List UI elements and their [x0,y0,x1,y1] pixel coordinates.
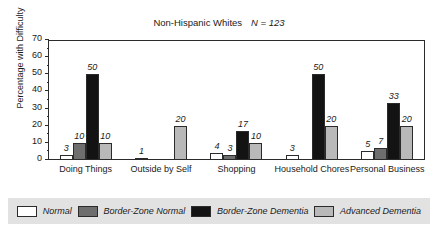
bar-group: 3105010 [48,40,123,160]
legend-label: Normal [43,206,72,216]
y-axis-tick-label: 10 [20,136,42,146]
chart-sample-size: N = 123 [251,17,285,28]
x-axis-label: Household Chores [275,164,350,174]
bar-advanced-dementia[interactable]: 10 [99,143,112,160]
legend-swatch [191,206,211,217]
chart-legend: NormalBorder-Zone NormalBorder-Zone Deme… [8,198,430,224]
bar-value-label: 20 [402,114,412,124]
legend-item-normal[interactable]: Normal [17,206,72,217]
legend-item-border-zone-normal[interactable]: Border-Zone Normal [78,206,186,217]
bar-normal[interactable]: 5 [361,151,374,160]
y-axis-tick-label: 60 [20,50,42,60]
bar-group: 573320 [350,40,425,160]
bar-value-label: 10 [100,131,110,141]
bar-value-label: 20 [176,114,186,124]
bar-value-label: 10 [251,131,261,141]
bar-advanced-dementia[interactable]: 20 [174,126,187,160]
bar-value-label: 33 [389,91,399,101]
x-axis-label: Doing Things [59,164,112,174]
bar-value-label: 3 [64,143,69,153]
x-axis-label: Shopping [217,164,255,174]
bar-advanced-dementia[interactable]: 10 [249,143,262,160]
legend-label: Border-Zone Normal [104,206,186,216]
bar-value-label: 17 [238,119,248,129]
y-axis-tick-label: 40 [20,84,42,94]
legend-swatch [314,206,334,217]
x-axis-label: Outside by Self [131,164,192,174]
bar-value-label: 50 [313,62,323,72]
y-axis-tick-label: 0 [20,153,42,163]
chart-title-text: Non-Hispanic Whites [153,17,242,28]
bar-normal[interactable]: 3 [60,155,73,160]
bar-value-label: 3 [290,143,295,153]
y-axis-tick-label: 30 [20,102,42,112]
bar-normal[interactable]: 1 [135,158,148,160]
bar-normal[interactable]: 3 [286,155,299,160]
bar-border-zone-dementia[interactable]: 50 [312,74,325,160]
bar-groups: 310501012043171035020573320 [48,40,425,160]
bar-border-zone-normal[interactable]: 7 [374,148,387,160]
chart-title: Non-Hispanic WhitesN = 123 [0,17,438,28]
bar-value-label: 3 [227,143,232,153]
y-axis-tick-label: 50 [20,67,42,77]
legend-swatch [17,206,37,217]
bar-value-label: 10 [74,131,84,141]
bar-value-label: 50 [87,62,97,72]
bar-border-zone-normal[interactable]: 10 [73,143,86,160]
legend-label: Border-Zone Dementia [217,206,308,216]
chart-root: Non-Hispanic WhitesN = 123 Percentage wi… [0,0,438,234]
y-axis-tick-label: 20 [20,119,42,129]
bar-value-label: 5 [365,139,370,149]
bar-normal[interactable]: 4 [210,153,223,160]
legend-label: Advanced Dementia [340,206,421,216]
bar-value-label: 20 [326,114,336,124]
x-axis-labels: Doing ThingsOutside by SelfShoppingHouse… [48,164,425,180]
bar-group: 431710 [199,40,274,160]
legend-item-border-zone-dementia[interactable]: Border-Zone Dementia [191,206,308,217]
bar-border-zone-dementia[interactable]: 50 [86,74,99,160]
bar-border-zone-dementia[interactable]: 33 [387,103,400,160]
bar-advanced-dementia[interactable]: 20 [325,126,338,160]
bar-border-zone-normal[interactable]: 3 [223,155,236,160]
bar-group: 120 [123,40,198,160]
bar-border-zone-dementia[interactable]: 17 [236,131,249,160]
x-axis-label: Personal Business [350,164,425,174]
bar-value-label: 7 [378,136,383,146]
legend-swatch [78,206,98,217]
bar-group: 35020 [274,40,349,160]
bar-value-label: 4 [214,141,219,151]
legend-item-advanced-dementia[interactable]: Advanced Dementia [314,206,421,217]
bar-value-label: 1 [139,146,144,156]
y-axis-tick-label: 70 [20,33,42,43]
bar-advanced-dementia[interactable]: 20 [400,126,413,160]
